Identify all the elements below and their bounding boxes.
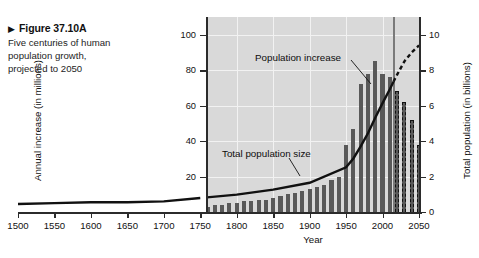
tick-mark	[420, 35, 426, 36]
tick-mark	[18, 213, 19, 218]
x-axis-tick-label: 1950	[335, 220, 356, 231]
right-axis-tick-label: 4	[429, 136, 434, 146]
tick-mark	[420, 141, 426, 142]
tick-mark	[273, 213, 274, 218]
x-axis-tick-label: 1850	[263, 220, 284, 231]
tick-mark	[200, 177, 206, 178]
tick-mark	[164, 213, 165, 218]
x-axis-title: Year	[207, 234, 419, 245]
tick-mark	[237, 213, 238, 218]
tick-mark	[420, 212, 426, 213]
x-axis-tick-label: 1650	[117, 220, 138, 231]
left-axis-tick-label: 20	[186, 172, 196, 182]
tick-mark	[200, 213, 201, 218]
x-axis-tick-label: 1800	[226, 220, 247, 231]
left-axis-tick-label: 60	[186, 101, 196, 111]
left-axis-spine	[206, 17, 208, 213]
tick-mark	[420, 70, 426, 71]
right-axis-tick-label: 2	[429, 172, 434, 182]
x-axis-tick-label: 1600	[80, 220, 101, 231]
tick-mark	[420, 106, 426, 107]
tick-mark	[54, 213, 55, 218]
right-axis-tick-label: 6	[429, 101, 434, 111]
population-growth-chart: 20406080100 0246810 15001550160016501700…	[0, 0, 479, 258]
early-population-line	[18, 198, 200, 204]
left-axis-tick-label: 100	[180, 30, 196, 40]
tick-mark	[200, 70, 206, 71]
left-axis-tick-label: 80	[186, 65, 196, 75]
annotation-population-increase: Population increase	[255, 52, 341, 63]
right-axis-tick-label: 0	[429, 207, 434, 217]
left-axis-tick-label: 40	[186, 136, 196, 146]
tick-mark	[200, 35, 206, 36]
right-axis-spine	[419, 17, 421, 213]
x-axis-tick-label: 1550	[44, 220, 65, 231]
bottom-axis-spine	[18, 212, 422, 214]
x-axis-tick-label: 1700	[153, 220, 174, 231]
tick-mark	[419, 213, 420, 218]
annotation-total-population-size: Total population size	[222, 148, 311, 159]
plot-area	[207, 17, 419, 212]
right-axis-title: Total population (in billions)	[461, 21, 472, 221]
x-axis-tick-label: 1500	[7, 220, 28, 231]
right-axis-tick-label: 10	[429, 30, 439, 40]
x-axis-tick-label: 1750	[190, 220, 211, 231]
total-population-line-projected	[393, 45, 419, 81]
x-axis-tick-label: 2050	[408, 220, 429, 231]
line-series-total-population	[207, 17, 419, 212]
tick-mark	[200, 106, 206, 107]
total-population-line-observed	[207, 82, 393, 204]
tick-mark	[310, 213, 311, 218]
tick-mark	[383, 213, 384, 218]
tick-mark	[200, 141, 206, 142]
right-axis-tick-label: 8	[429, 65, 434, 75]
tick-mark	[127, 213, 128, 218]
tick-mark	[346, 213, 347, 218]
tick-mark	[91, 213, 92, 218]
left-axis-title: Annual increase (in millions)	[32, 31, 43, 211]
x-axis-tick-label: 2000	[372, 220, 393, 231]
x-axis-tick-label: 1900	[299, 220, 320, 231]
tick-mark	[420, 177, 426, 178]
